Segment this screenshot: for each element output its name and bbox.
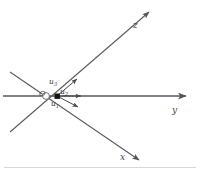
vector-label-u2: u2 (60, 88, 68, 96)
bottom-divider-rule (4, 167, 196, 168)
axis-label-x: x (120, 153, 125, 162)
axis-label-y: y (172, 106, 177, 115)
vector-arrow-u1 (57, 96, 78, 107)
origin-label: O (39, 90, 46, 98)
axes-figure-svg (0, 0, 200, 172)
vector-label-u3-subscript: 3 (54, 81, 58, 87)
axis-line-z (10, 12, 149, 132)
vector-label-u1: u1 (51, 100, 59, 108)
vector-label-u3: u3 (49, 78, 57, 86)
axes-figure-canvas: z y x O u3 u2 u1 (0, 0, 200, 172)
vector-label-u1-subscript: 1 (56, 103, 60, 109)
vector-label-u2-subscript: 2 (65, 91, 69, 97)
axis-label-z: z (133, 21, 138, 30)
